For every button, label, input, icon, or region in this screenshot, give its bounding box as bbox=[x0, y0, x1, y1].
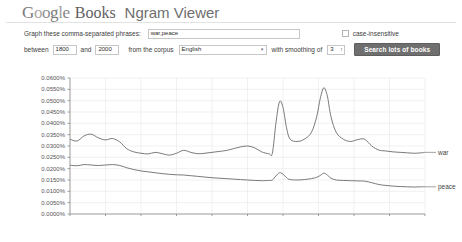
y-axis-ticks: 0.0000%0.0050%0.0100%0.0150%0.0200%0.025… bbox=[41, 75, 70, 216]
series-label-war: war bbox=[437, 149, 449, 156]
phrases-input[interactable]: war,peace bbox=[148, 29, 300, 39]
query-form: Graph these comma-separated phrases: war… bbox=[0, 23, 462, 56]
app-logo[interactable]: Google Books Ngram Viewer bbox=[22, 4, 462, 22]
smoothing-stepper[interactable]: 3 ↕ bbox=[327, 45, 345, 55]
phrases-row: Graph these comma-separated phrases: war… bbox=[24, 27, 462, 40]
stepper-arrows-icon: ↕ bbox=[340, 47, 342, 52]
app-header: Google Books Ngram Viewer bbox=[0, 0, 462, 20]
ngram-chart: 1800182018401860188019001920194019601980… bbox=[0, 56, 462, 216]
books-wordmark: Books bbox=[75, 4, 116, 22]
y-tick-label: 0.0600% bbox=[41, 75, 65, 81]
and-label: and bbox=[81, 45, 92, 54]
logo-letter-o1: o bbox=[34, 3, 42, 22]
y-tick-label: 0.0550% bbox=[41, 86, 65, 92]
smoothing-value: 3 bbox=[330, 45, 333, 54]
logo-letter-g: G bbox=[22, 3, 34, 22]
y-tick-label: 0.0450% bbox=[41, 109, 65, 115]
chevron-down-icon: ▾ bbox=[261, 47, 264, 52]
year-end-input[interactable]: 2000 bbox=[95, 45, 119, 55]
range-row: between 1800 and 2000 from the corpus En… bbox=[24, 43, 462, 56]
year-start-input[interactable]: 1800 bbox=[53, 45, 77, 55]
smoothing-label: with smoothing of bbox=[267, 45, 323, 54]
y-tick-label: 0.0150% bbox=[41, 177, 65, 183]
y-tick-label: 0.0300% bbox=[41, 143, 65, 149]
y-tick-label: 0.0400% bbox=[41, 120, 65, 126]
case-insensitive-checkbox[interactable] bbox=[342, 30, 349, 37]
series-label-peace: peace bbox=[438, 183, 456, 191]
y-tick-label: 0.0200% bbox=[41, 166, 65, 172]
y-tick-label: 0.0350% bbox=[41, 132, 65, 138]
logo-letter-o2: o bbox=[42, 3, 50, 22]
search-button[interactable]: Search lots of books bbox=[354, 43, 440, 56]
series-labels: warpeace bbox=[425, 149, 456, 191]
y-tick-label: 0.0100% bbox=[41, 188, 65, 194]
case-insensitive-label: case-insensitive bbox=[353, 30, 399, 37]
y-tick-label: 0.0500% bbox=[41, 98, 65, 104]
y-tick-label: 0.0000% bbox=[41, 211, 65, 216]
corpus-value: English bbox=[182, 45, 202, 54]
logo-letter-e: e bbox=[63, 3, 70, 22]
logo-letter-g2: g bbox=[50, 3, 58, 22]
ngram-viewer-title: Ngram Viewer bbox=[121, 4, 220, 22]
corpus-select[interactable]: English ▾ bbox=[179, 45, 267, 55]
y-tick-label: 0.0050% bbox=[41, 200, 65, 206]
phrases-label: Graph these comma-separated phrases: bbox=[24, 29, 141, 38]
google-wordmark: Google bbox=[22, 4, 70, 22]
chart-canvas[interactable]: 1800182018401860188019001920194019601980… bbox=[0, 56, 462, 216]
y-tick-label: 0.0250% bbox=[41, 154, 65, 160]
case-insensitive-toggle[interactable]: case-insensitive bbox=[342, 30, 399, 37]
between-label: between bbox=[24, 45, 49, 54]
corpus-label: from the corpus bbox=[123, 45, 173, 54]
